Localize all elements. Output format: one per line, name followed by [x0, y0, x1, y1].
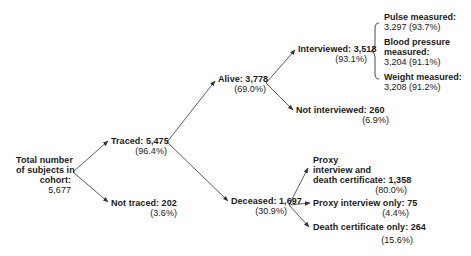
node-traced: Traced: 5,475 (96.4%)	[111, 136, 167, 156]
proxy-both-line-2: interview and	[313, 165, 407, 175]
deceased-pct: (30.9%)	[231, 206, 287, 216]
node-alive: Alive: 3,778 (69.0%)	[218, 74, 266, 94]
node-not-interviewed: Not interviewed: 260 (6.9%)	[296, 105, 389, 125]
alive-pct: (69.0%)	[218, 84, 266, 94]
measure-weight: Weight measured: 3,208 (91.2%)	[384, 72, 471, 92]
interviewed-pct: (93.1%)	[298, 54, 367, 64]
proxy-both-line-3: death certificate: 1,358	[313, 175, 407, 185]
total-line-3: cohort:	[16, 175, 71, 185]
bp-label-1: Blood pressure	[384, 37, 471, 47]
death-only-label: Death certificate only: 264	[313, 222, 413, 232]
node-proxy-only: Proxy interview only: 75 (4.4%)	[313, 198, 409, 218]
pulse-value: 3,297 (93.7%)	[384, 22, 471, 32]
bp-value: 3,204 (91.1%)	[384, 57, 471, 67]
proxy-both-line-1: Proxy	[313, 155, 407, 165]
proxy-only-label: Proxy interview only: 75	[313, 198, 409, 208]
weight-label: Weight measured:	[384, 72, 471, 82]
death-only-pct: (15.6%)	[313, 235, 413, 245]
proxy-both-pct: (80.0%)	[313, 185, 407, 195]
weight-value: 3,208 (91.2%)	[384, 82, 471, 92]
node-total-cohort: Total number of subjects in cohort: 5,67…	[16, 155, 71, 195]
deceased-label: Deceased: 1,697	[231, 196, 287, 206]
measure-blood-pressure: Blood pressure measured: 3,204 (91.1%)	[384, 37, 471, 67]
cohort-flow-diagram: Total number of subjects in cohort: 5,67…	[0, 0, 471, 256]
total-line-1: Total number	[16, 155, 71, 165]
traced-pct: (96.4%)	[111, 146, 167, 156]
bp-label-2: measured:	[384, 47, 471, 57]
measure-pulse: Pulse measured: 3,297 (93.7%)	[384, 12, 471, 32]
total-count: 5,677	[16, 185, 71, 195]
not-interviewed-label: Not interviewed: 260	[296, 105, 389, 115]
total-line-2: of subjects in	[16, 165, 71, 175]
traced-label: Traced: 5,475	[111, 136, 167, 146]
pulse-label: Pulse measured:	[384, 12, 471, 22]
alive-label: Alive: 3,778	[218, 74, 266, 84]
not-traced-pct: (3.6%)	[111, 208, 177, 218]
node-death-certificate-only: Death certificate only: 264 (15.6%)	[313, 222, 413, 245]
measurements-list: Pulse measured: 3,297 (93.7%) Blood pres…	[384, 12, 471, 97]
interviewed-label: Interviewed: 3,518	[298, 44, 367, 54]
not-interviewed-pct: (6.9%)	[296, 115, 389, 125]
node-not-traced: Not traced: 202 (3.6%)	[111, 198, 177, 218]
node-interviewed: Interviewed: 3,518 (93.1%)	[298, 44, 367, 64]
node-deceased: Deceased: 1,697 (30.9%)	[231, 196, 287, 216]
node-proxy-and-death-certificate: Proxy interview and death certificate: 1…	[313, 155, 407, 195]
not-traced-label: Not traced: 202	[111, 198, 177, 208]
proxy-only-pct: (4.4%)	[313, 208, 409, 218]
